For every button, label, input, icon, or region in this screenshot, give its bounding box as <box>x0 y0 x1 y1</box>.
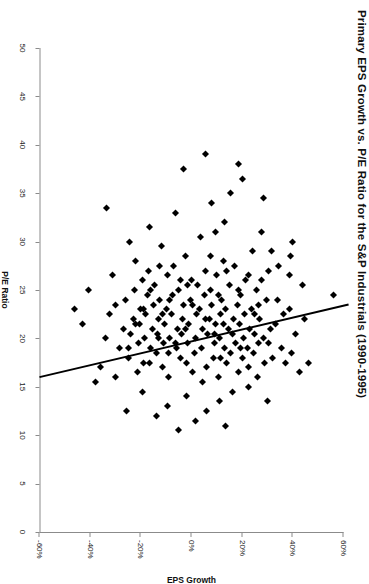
pe-ratio-axis-label: P/E Ratio <box>0 271 9 308</box>
pe-ratio-tick-label: 0 <box>17 530 26 534</box>
eps-growth-axis-label: EPS Growth <box>166 575 215 584</box>
pe-ratio-tick <box>35 338 39 339</box>
plot-area: 05101520253035404550 -60%-40%-20%0%20%40… <box>39 48 343 532</box>
pe-ratio-tick-label: 30 <box>17 237 26 246</box>
pe-ratio-tick <box>35 484 39 485</box>
pe-ratio-tick-label: 40 <box>17 140 26 149</box>
eps-growth-tick-label: -40% <box>85 540 94 559</box>
pe-ratio-tick <box>35 387 39 388</box>
eps-growth-tick <box>241 532 242 537</box>
pe-ratio-tick-label: 15 <box>17 382 26 391</box>
eps-growth-tick-label: 0% <box>187 540 196 552</box>
eps-growth-tick <box>190 532 191 537</box>
eps-growth-tick <box>139 532 140 537</box>
pe-ratio-tick <box>35 242 39 243</box>
eps-growth-tick-label: 20% <box>237 540 246 556</box>
pe-ratio-tick-label: 45 <box>17 92 26 101</box>
pe-ratio-tick-label: 35 <box>17 189 26 198</box>
pe-ratio-tick <box>35 290 39 291</box>
eps-growth-tick <box>89 532 90 537</box>
eps-growth-tick <box>342 532 343 537</box>
eps-growth-tick-label: 40% <box>288 540 297 556</box>
chart-title: Primary EPS Growth vs. P/E Ratio for the… <box>355 10 367 398</box>
pe-ratio-tick <box>35 145 39 146</box>
eps-growth-tick <box>38 532 39 537</box>
pe-ratio-tick <box>35 435 39 436</box>
pe-ratio-tick-label: 25 <box>17 286 26 295</box>
pe-ratio-tick-label: 50 <box>17 44 26 53</box>
pe-ratio-tick <box>35 96 39 97</box>
pe-ratio-tick <box>35 48 39 49</box>
eps-growth-tick-label: -60% <box>35 540 44 559</box>
pe-ratio-tick-label: 5 <box>17 481 26 485</box>
pe-ratio-tick <box>35 193 39 194</box>
pe-ratio-tick-label: 20 <box>17 334 26 343</box>
eps-growth-tick-label: -20% <box>136 540 145 559</box>
rotated-chart-canvas: Primary EPS Growth vs. P/E Ratio for the… <box>0 0 369 584</box>
chart-figure: Primary EPS Growth vs. P/E Ratio for the… <box>0 0 369 584</box>
eps-growth-tick-label: 60% <box>339 540 348 556</box>
eps-growth-tick <box>291 532 292 537</box>
pe-ratio-tick-label: 10 <box>17 431 26 440</box>
